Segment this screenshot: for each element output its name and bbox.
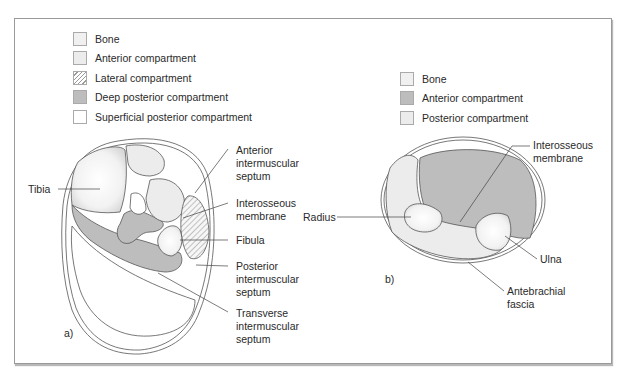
label-interosseous-membrane-forearm: Interosseous membrane xyxy=(533,139,593,165)
panel-letter-a: a) xyxy=(64,327,73,340)
label-ulna: Ulna xyxy=(540,253,562,266)
anatomy-illustration xyxy=(0,0,622,381)
label-antebrachial-fascia: Antebrachial fascia xyxy=(507,285,565,311)
forearm-cross-section xyxy=(381,137,545,263)
tibia-bone xyxy=(71,147,126,213)
label-fibula: Fibula xyxy=(236,234,265,247)
label-posterior-intermuscular-septum: Posterior intermuscular septum xyxy=(236,260,299,299)
panel-letter-b: b) xyxy=(385,273,394,286)
label-radius: Radius xyxy=(303,211,336,224)
label-anterior-intermuscular-septum: Anterior intermuscular septum xyxy=(236,144,299,183)
label-transverse-intermuscular-septum: Transverse intermuscular septum xyxy=(236,307,299,346)
label-tibia: Tibia xyxy=(28,183,50,196)
label-interosseous-membrane-leg: Interosseous membrane xyxy=(236,197,296,223)
leg-cross-section xyxy=(62,139,214,354)
